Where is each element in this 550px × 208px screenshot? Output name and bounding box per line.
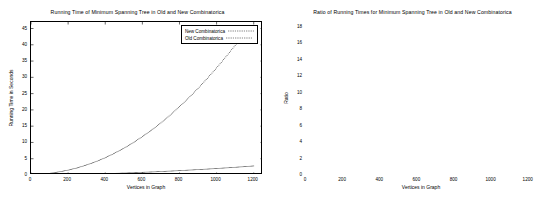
y-tick-label: 14 — [285, 56, 302, 61]
chart-panel-right: Ratio of Running Times for Minimum Spann… — [275, 0, 550, 208]
figure-container: Running Time of Minimum Spanning Tree in… — [0, 0, 550, 208]
y-tick-label: 0 — [10, 172, 27, 177]
chart-title-left: Running Time of Minimum Spanning Tree in… — [0, 9, 275, 15]
legend-label-new-combinatorica: New Combinatorica — [185, 29, 225, 34]
x-tick-label: 0 — [304, 177, 307, 182]
series-0 — [33, 166, 255, 173]
y-tick-label: 10 — [10, 139, 27, 144]
y-tick-label: 18 — [285, 23, 302, 28]
x-tick-label: 600 — [413, 177, 421, 182]
legend-swatch-new-combinatorica — [228, 28, 254, 34]
x-tick-label: 800 — [450, 177, 458, 182]
x-tick-label: 600 — [138, 177, 146, 182]
x-tick-label: 400 — [100, 177, 108, 182]
x-tick-label: 1000 — [210, 177, 220, 182]
y-tick-label: 35 — [10, 58, 27, 63]
y-tick-label: 16 — [285, 40, 302, 45]
y-axis-title-right: Ratio — [283, 92, 289, 104]
x-tick-label: 1000 — [485, 177, 495, 182]
x-tick-label: 1200 — [248, 177, 258, 182]
chart-title-right: Ratio of Running Times for Minimum Spann… — [275, 9, 550, 15]
plot-curves-left — [31, 22, 261, 173]
y-axis-title-left: Running Time in Seconds — [8, 69, 14, 126]
y-tick-label: 0 — [285, 172, 302, 177]
x-axis-title-right: Vertices in Graph — [402, 184, 440, 190]
y-tick-label: 5 — [10, 155, 27, 160]
y-tick-label: 40 — [10, 41, 27, 46]
x-tick-label: 200 — [63, 177, 71, 182]
plot-area-left: New Combinatorica Old Combinatorica — [30, 21, 262, 174]
x-tick-label: 1200 — [523, 177, 533, 182]
legend-left: New Combinatorica Old Combinatorica — [181, 25, 258, 44]
chart-panel-left: Running Time of Minimum Spanning Tree in… — [0, 0, 275, 208]
legend-item-new-combinatorica: New Combinatorica — [185, 28, 254, 35]
x-tick-label: 0 — [29, 177, 32, 182]
x-tick-label: 800 — [175, 177, 183, 182]
x-axis-title-left: Vertices in Graph — [127, 184, 165, 190]
y-tick-label: 45 — [10, 25, 27, 30]
y-tick-label: 6 — [285, 122, 302, 127]
legend-item-old-combinatorica: Old Combinatorica — [185, 35, 254, 42]
legend-label-old-combinatorica: Old Combinatorica — [185, 36, 223, 41]
y-tick-label: 4 — [285, 139, 302, 144]
legend-swatch-old-combinatorica — [226, 35, 252, 41]
x-tick-label: 400 — [375, 177, 383, 182]
y-tick-label: 8 — [285, 106, 302, 111]
y-tick-label: 12 — [285, 73, 302, 78]
y-tick-label: 2 — [285, 155, 302, 160]
series-1 — [33, 25, 255, 173]
x-tick-label: 200 — [338, 177, 346, 182]
